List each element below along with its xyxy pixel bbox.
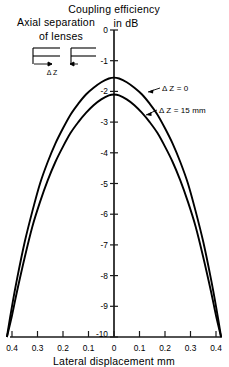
inset-delta-z-label: Δ Z xyxy=(47,69,58,76)
figure-coupling-efficiency: Coupling efficiency in dB Axial separati… xyxy=(0,0,229,367)
chart-svg: Coupling efficiency in dB Axial separati… xyxy=(0,0,229,367)
axial-separation-inset: Axial separation of lenses Δ Z xyxy=(17,16,96,76)
x-tick-label-p02: 0.2 xyxy=(159,343,171,353)
x-tick-label-p04: 0.4 xyxy=(210,343,222,353)
y-tick-label-6: -6 xyxy=(101,209,109,219)
x-tick-label-0: 0 xyxy=(112,343,117,353)
x-tick-label-m04: 0.4 xyxy=(6,343,18,353)
y-axis-tick-labels: 0 -1 -2 -3 -4 -5 -6 -7 -8 -9 -10 xyxy=(96,25,108,339)
chart-title-line1: Coupling efficiency xyxy=(68,3,160,15)
x-axis-title: Lateral displacement mm xyxy=(53,355,175,367)
left-lens-glyph xyxy=(33,48,60,64)
y-tick-label-3: -3 xyxy=(101,117,109,127)
y-tick-label-8: -8 xyxy=(101,271,109,281)
x-tick-label-p01: 0.1 xyxy=(134,343,146,353)
y-tick-label-1: -1 xyxy=(101,56,109,66)
x-tick-label-m01: 0.1 xyxy=(83,343,95,353)
y-tick-label-2: -2 xyxy=(101,86,109,96)
annotation-arrowhead-1 xyxy=(146,112,152,116)
inset-caption-line2: of lenses xyxy=(39,30,83,42)
right-lens-glyph xyxy=(71,48,96,64)
y-tick-label-10: -10 xyxy=(96,329,108,339)
x-tick-label-m03: 0.3 xyxy=(32,343,44,353)
annotation-delta-z-15mm: Δ Z = 15 mm xyxy=(146,106,206,116)
x-axis-ticks xyxy=(12,331,216,337)
y-tick-label-0: 0 xyxy=(103,25,108,35)
inset-caption-line1: Axial separation xyxy=(17,16,95,28)
x-tick-label-m02: 0.2 xyxy=(57,343,69,353)
chart-title-line2: in dB xyxy=(114,17,139,29)
x-tick-label-p03: 0.3 xyxy=(185,343,197,353)
annotation-label-delta-z-0: Δ Z = 0 xyxy=(162,84,189,93)
y-tick-label-9: -9 xyxy=(101,301,109,311)
x-axis-tick-labels: 0.4 0.3 0.2 0.1 0 0.1 0.2 0.3 0.4 xyxy=(6,343,222,353)
y-tick-label-5: -5 xyxy=(101,179,109,189)
annotation-delta-z-0: Δ Z = 0 xyxy=(148,84,189,94)
y-tick-label-4: -4 xyxy=(101,148,109,158)
y-tick-label-7: -7 xyxy=(101,240,109,250)
annotation-label-delta-z-15mm: Δ Z = 15 mm xyxy=(159,106,206,115)
